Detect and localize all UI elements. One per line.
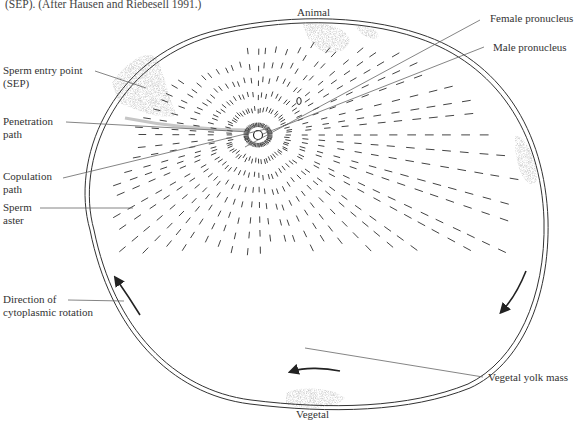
penetration-path xyxy=(125,118,250,130)
label-male-pronucleus: Male pronucleus xyxy=(493,41,567,54)
label-female-pronucleus: Female pronucleus xyxy=(490,12,573,25)
label-vegetal-yolk-mass: Vegetal yolk mass xyxy=(488,371,568,384)
label-sperm-aster: Sperm xyxy=(3,201,32,214)
leader-lines xyxy=(40,20,484,377)
label-sperm-aster-2: aster xyxy=(3,214,24,227)
label-rotation-2: cytoplasmic rotation xyxy=(3,306,93,319)
label-sperm-entry-point: Sperm entry point xyxy=(3,64,82,77)
label-rotation: Direction of xyxy=(3,293,56,306)
rotation-arrow-left-icon xyxy=(117,280,140,315)
stipple-regions xyxy=(112,24,537,408)
label-sep: (SEP) xyxy=(3,77,29,90)
rotation-arrow-bottom-icon xyxy=(293,368,340,371)
label-penetration-path-2: path xyxy=(3,128,22,141)
egg-diagram xyxy=(0,0,587,421)
rotation-arrow-right-icon xyxy=(503,271,526,310)
label-vegetal-pole: Vegetal xyxy=(296,408,329,421)
label-copulation-path-2: path xyxy=(3,183,22,196)
female-pronucleus xyxy=(297,98,301,105)
label-copulation-path: Copulation xyxy=(3,170,52,183)
label-penetration-path: Penetration xyxy=(3,115,53,128)
sperm-aster xyxy=(114,42,519,254)
label-animal-pole: Animal xyxy=(297,6,330,19)
